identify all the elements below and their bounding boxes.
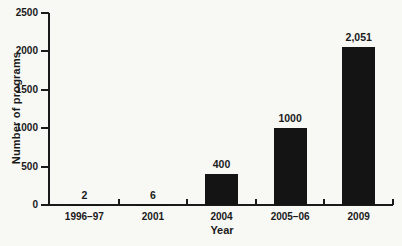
x-axis-title: Year bbox=[188, 224, 256, 236]
x-axis-tick bbox=[323, 199, 325, 205]
x-axis-tick bbox=[186, 199, 188, 205]
x-axis-tick bbox=[118, 199, 120, 205]
x-axis-tick-label: 2001 bbox=[119, 212, 187, 222]
y-axis-tick bbox=[41, 166, 49, 168]
bar-value-label: 400 bbox=[192, 159, 252, 169]
y-axis-tick bbox=[41, 127, 49, 129]
y-axis-title: Number of programs bbox=[10, 48, 22, 168]
y-axis-tick-label: 1500 bbox=[4, 85, 38, 95]
bar-value-label: 6 bbox=[123, 190, 183, 200]
y-axis-tick-label: 0 bbox=[4, 200, 38, 210]
y-axis-tick-label: 2500 bbox=[4, 8, 38, 18]
bar-2005–06 bbox=[274, 128, 307, 205]
y-axis-tick bbox=[41, 204, 49, 206]
bar-chart-figure: Number of programs Year 0500100015002000… bbox=[0, 0, 402, 246]
x-axis-tick-label: 1996–97 bbox=[50, 212, 118, 222]
x-axis-tick bbox=[255, 199, 257, 205]
bar-value-label: 2,051 bbox=[329, 32, 389, 42]
x-axis-tick-label: 2009 bbox=[325, 212, 393, 222]
x-axis-tick-label: 2005–06 bbox=[256, 212, 324, 222]
bar-value-label: 2 bbox=[54, 190, 114, 200]
x-axis-tick bbox=[392, 199, 394, 205]
y-axis-tick bbox=[41, 89, 49, 91]
y-axis-tick bbox=[41, 50, 49, 52]
y-axis-tick-label: 2000 bbox=[4, 46, 38, 56]
x-axis-tick-label: 2004 bbox=[188, 212, 256, 222]
bar-value-label: 1000 bbox=[260, 113, 320, 123]
bar-2004 bbox=[205, 174, 238, 205]
y-axis-tick-label: 1000 bbox=[4, 123, 38, 133]
y-axis-tick-label: 500 bbox=[4, 162, 38, 172]
y-axis-line bbox=[48, 13, 50, 206]
y-axis-tick bbox=[41, 12, 49, 14]
bar-2009 bbox=[342, 47, 375, 205]
